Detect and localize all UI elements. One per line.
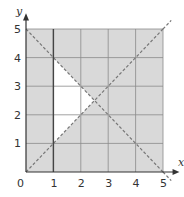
x-axis-arrow-icon: [173, 169, 180, 175]
x-tick-label: 2: [78, 177, 85, 190]
x-axis-label: x: [178, 156, 184, 169]
y-tick-label: 3: [14, 80, 21, 93]
region-graph: 01234512345xy: [0, 0, 184, 197]
y-axis-label: y: [15, 5, 23, 18]
x-tick-label: 1: [50, 177, 57, 190]
y-tick-label: 2: [14, 109, 21, 122]
x-tick-label: 5: [160, 177, 167, 190]
x-tick-label: 0: [17, 177, 24, 190]
y-tick-label: 5: [14, 23, 21, 36]
line-y-x-extension: [163, 20, 171, 29]
y-tick-label: 1: [14, 137, 21, 150]
y-tick-label: 4: [14, 52, 21, 65]
x-tick-label: 4: [133, 177, 140, 190]
x-tick-label: 3: [105, 177, 112, 190]
y-axis-arrow-icon: [23, 13, 29, 20]
